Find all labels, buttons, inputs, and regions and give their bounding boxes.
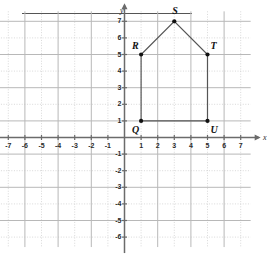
coordinate-plane-figure: y x -7-6-5-4-3-2-112345677654321-1-2-3-4…: [0, 0, 275, 256]
y-tick-label-3: 3: [110, 84, 122, 91]
axis-lines: [0, 3, 261, 253]
y-tick-label-4: 4: [110, 67, 122, 74]
point-s: [172, 19, 176, 23]
x-tick-label--1: -1: [101, 142, 115, 149]
y-tick-label-1: 1: [110, 117, 122, 124]
x-tick-label--2: -2: [84, 142, 98, 149]
vertex-label-s: S: [172, 5, 178, 16]
y-tick-label--6: -6: [110, 233, 122, 240]
vertex-label-t: T: [211, 40, 217, 51]
vertex-label-r: R: [132, 40, 139, 51]
x-tick-label-2: 2: [151, 142, 165, 149]
x-tick-label-3: 3: [167, 142, 181, 149]
y-tick-label-2: 2: [110, 100, 122, 107]
vertex-label-q: Q: [132, 124, 139, 135]
y-tick-label-5: 5: [110, 51, 122, 58]
x-tick-label-4: 4: [184, 142, 198, 149]
x-tick-label-7: 7: [234, 142, 248, 149]
y-tick-label-7: 7: [110, 17, 122, 24]
y-tick-label--1: -1: [110, 150, 122, 157]
x-tick-label--7: -7: [1, 142, 15, 149]
y-tick-label--3: -3: [110, 183, 122, 190]
x-tick-label-6: 6: [217, 142, 231, 149]
point-t: [205, 52, 209, 56]
y-tick-label--2: -2: [110, 167, 122, 174]
x-tick-label--3: -3: [68, 142, 82, 149]
point-u: [205, 119, 209, 123]
y-tick-label--5: -5: [110, 217, 122, 224]
y-tick-label-6: 6: [110, 34, 122, 41]
x-tick-label-5: 5: [201, 142, 215, 149]
x-tick-label-1: 1: [134, 142, 148, 149]
point-r: [139, 52, 143, 56]
polygon-qrstu: [141, 21, 207, 121]
y-tick-label--4: -4: [110, 200, 122, 207]
x-tick-label--5: -5: [35, 142, 49, 149]
vertex-label-u: U: [211, 124, 218, 135]
point-q: [139, 119, 143, 123]
x-tick-label--4: -4: [51, 142, 65, 149]
x-tick-label--6: -6: [18, 142, 32, 149]
